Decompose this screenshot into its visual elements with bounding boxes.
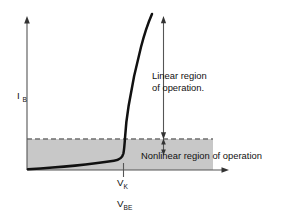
linear-region-annotation-line2: of operation. xyxy=(152,82,204,93)
linear-region-measure-arrow-up-icon xyxy=(161,16,166,23)
y-axis-label: I xyxy=(17,90,20,101)
nonlinear-region-annotation: Nonlinear region of operation xyxy=(141,150,262,161)
knee-voltage-label-subscript: K xyxy=(124,183,129,190)
y-axis-label-subscript: B xyxy=(23,96,28,103)
x-axis-label-subscript: BE xyxy=(124,204,133,211)
figure-canvas: I B V K V BE Linear region of operation.… xyxy=(0,0,290,216)
x-axis-arrowhead-icon xyxy=(222,167,230,172)
linear-region-annotation-line1: Linear region xyxy=(152,70,207,81)
characteristic-curve-figure: I B V K V BE Linear region of operation.… xyxy=(0,0,290,216)
y-axis-arrowhead-icon xyxy=(24,16,30,24)
